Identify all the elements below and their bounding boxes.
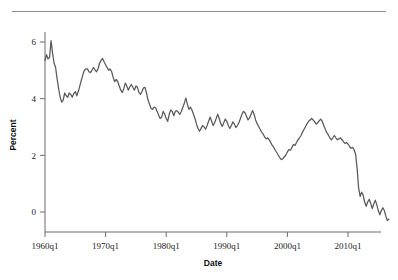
x-tick-label: 1980q1 <box>153 241 180 251</box>
x-tick-label: 1960q1 <box>32 241 59 251</box>
x-tick-labels: 1960q11970q11980q11990q12000q12010q1 <box>32 241 362 251</box>
x-tick-label: 2010q1 <box>335 241 362 251</box>
line-chart: 0246 1960q11970q11980q11990q12000q12010q… <box>0 0 398 280</box>
y-tick-label: 2 <box>32 151 37 161</box>
series-line-percent <box>45 41 389 221</box>
x-tick-label: 1990q1 <box>213 241 240 251</box>
x-tick-label: 2000q1 <box>274 241 301 251</box>
x-tick-label: 1970q1 <box>92 241 119 251</box>
y-tick-label: 0 <box>32 207 37 217</box>
chart-svg: 0246 1960q11970q11980q11990q12000q12010q… <box>0 0 398 280</box>
y-tick-labels: 0246 <box>32 37 37 217</box>
y-tick-label: 4 <box>32 94 37 104</box>
y-tick-marks <box>40 42 45 212</box>
y-axis-title: Percent <box>8 119 18 150</box>
y-tick-label: 6 <box>32 37 37 47</box>
x-axis-title: Date <box>204 258 223 268</box>
x-tick-marks <box>45 232 348 237</box>
